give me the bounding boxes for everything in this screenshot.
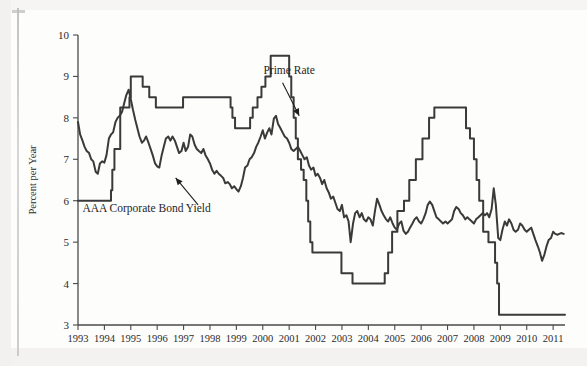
x-tick-label-2007: 2007 bbox=[437, 333, 458, 344]
x-tick-label-1997: 1997 bbox=[173, 333, 194, 344]
x-tick-label-2001: 2001 bbox=[279, 333, 300, 344]
figure-page: 345678910 199319941995199619971998199920… bbox=[0, 0, 587, 366]
x-tick-label-2009: 2009 bbox=[490, 333, 511, 344]
annotation-label-aaa-corporate-bond-yield: AAA Corporate Bond Yield bbox=[82, 202, 211, 215]
x-tick-label-1993: 1993 bbox=[68, 333, 89, 344]
y-tick-label-3: 3 bbox=[64, 319, 70, 331]
y-tick-label-5: 5 bbox=[64, 236, 70, 248]
x-tick-label-1995: 1995 bbox=[120, 333, 141, 344]
x-tick-label-2008: 2008 bbox=[463, 333, 484, 344]
y-tick-label-7: 7 bbox=[64, 153, 70, 165]
x-tick-label-2006: 2006 bbox=[411, 333, 432, 344]
y-tick-label-10: 10 bbox=[58, 29, 70, 41]
x-tick-label-1999: 1999 bbox=[226, 333, 247, 344]
x-tick-label-2000: 2000 bbox=[252, 333, 273, 344]
series-lines bbox=[78, 56, 565, 315]
x-axis: 1993199419951996199719981999200020012002… bbox=[68, 325, 566, 344]
annotation-label-prime-rate: Prime Rate bbox=[263, 64, 314, 76]
x-tick-label-1996: 1996 bbox=[147, 333, 168, 344]
x-tick-label-2003: 2003 bbox=[331, 333, 352, 344]
annotations: Prime RateAAA Corporate Bond Yield bbox=[82, 64, 314, 215]
y-tick-label-6: 6 bbox=[64, 195, 70, 207]
series-line-prime-rate bbox=[78, 56, 565, 315]
x-tick-label-1994: 1994 bbox=[94, 333, 116, 344]
x-tick-label-2010: 2010 bbox=[516, 333, 537, 344]
x-tick-label-2005: 2005 bbox=[384, 333, 405, 344]
x-tick-label-2004: 2004 bbox=[358, 333, 380, 344]
chart-canvas: 345678910 199319941995199619971998199920… bbox=[0, 0, 587, 366]
x-tick-label-2002: 2002 bbox=[305, 333, 326, 344]
y-axis: 345678910 bbox=[58, 29, 78, 331]
y-tick-label-4: 4 bbox=[64, 278, 70, 290]
x-tick-label-1998: 1998 bbox=[199, 333, 220, 344]
interest-rate-line-chart: 345678910 199319941995199619971998199920… bbox=[0, 0, 587, 366]
y-axis-title: Percent per Year bbox=[27, 145, 38, 215]
x-tick-label-2011: 2011 bbox=[543, 333, 564, 344]
y-tick-label-8: 8 bbox=[64, 112, 70, 124]
series-line-aaa-corporate-bond-yield bbox=[78, 90, 564, 261]
y-tick-label-9: 9 bbox=[64, 70, 70, 82]
